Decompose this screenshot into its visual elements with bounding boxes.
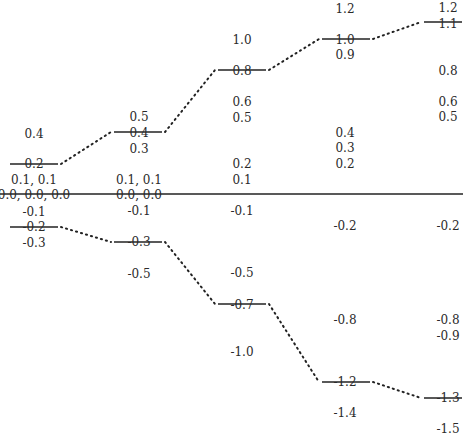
value-label: -0.9	[436, 330, 459, 342]
lower-connector-col3	[269, 304, 319, 382]
value-label: -0.5	[127, 268, 150, 280]
value-label: -0.3	[127, 236, 150, 248]
value-label: 0.0, 0.0	[116, 189, 162, 201]
value-label: 0.4	[129, 127, 148, 139]
value-label: -1.3	[436, 392, 459, 404]
lower-connector-col4	[373, 382, 421, 398]
value-label: -0.3	[22, 237, 45, 249]
value-label: -1.5	[436, 423, 459, 435]
value-label: -0.1	[22, 206, 45, 218]
lower-connector-col2	[165, 242, 215, 304]
upper-connector-col2	[165, 70, 215, 132]
upper-connector-col3	[269, 39, 319, 70]
value-label: 1.2	[335, 3, 354, 15]
value-label: 0.1, 0.1	[116, 174, 162, 186]
value-label: -1.4	[333, 407, 356, 419]
value-label: 1.1	[438, 18, 457, 30]
value-label: 1.2	[438, 2, 457, 14]
value-label: -0.7	[230, 299, 253, 311]
value-label: 0.2	[24, 158, 43, 170]
value-label: -0.2	[22, 221, 45, 233]
upper-connector-col4	[373, 22, 421, 39]
value-label: 1.0	[232, 34, 251, 46]
value-label: 0.0, 0.0, 0.0	[0, 189, 70, 201]
value-label: 0.9	[335, 49, 354, 61]
value-label: 0.8	[438, 65, 457, 77]
value-label: 0.3	[335, 142, 354, 154]
value-label: 0.5	[129, 111, 148, 123]
value-label: -0.1	[230, 205, 253, 217]
value-label: 1.0	[335, 34, 354, 46]
value-label: 0.8	[232, 65, 251, 77]
value-label: 0.4	[335, 127, 354, 139]
value-label: 0.6	[232, 96, 251, 108]
value-label: -0.8	[436, 314, 459, 326]
value-label: -1.0	[230, 346, 253, 358]
value-label: -1.2	[333, 376, 356, 388]
value-label: -0.1	[127, 205, 150, 217]
value-label: -0.8	[333, 314, 356, 326]
value-label: 0.1, 0.1	[11, 174, 57, 186]
value-label: 0.1	[232, 174, 251, 186]
value-label: 0.5	[438, 111, 457, 123]
lower-connector-col1	[61, 227, 111, 242]
value-label: -0.2	[436, 220, 459, 232]
value-label: -0.2	[333, 220, 356, 232]
value-label: 0.2	[335, 158, 354, 170]
value-label: -0.5	[230, 267, 253, 279]
value-label: 0.6	[438, 96, 457, 108]
value-label: 0.2	[232, 158, 251, 170]
upper-connector-col1	[61, 132, 111, 164]
value-label: 0.5	[232, 112, 251, 124]
value-label: 0.4	[24, 128, 43, 140]
value-label: 0.3	[129, 143, 148, 155]
